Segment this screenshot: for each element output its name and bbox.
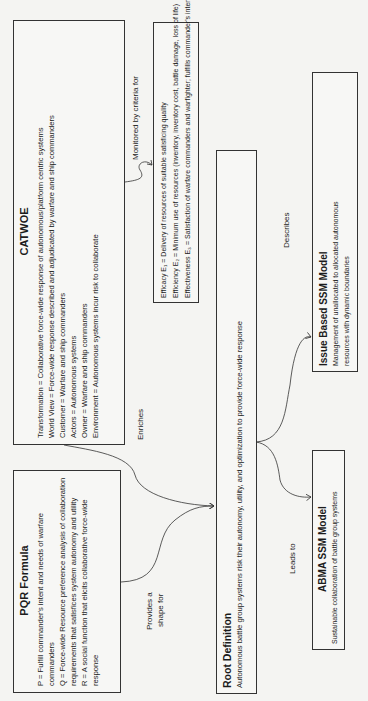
catwoe-line: Transformation = Collaborative force-wid… xyxy=(35,25,46,438)
catwoe-line: World View = Force-wide response describ… xyxy=(46,25,57,438)
catwoe-box: CATWOE Transformation = Collaborative fo… xyxy=(13,20,125,445)
label-provides-1: Provides a xyxy=(145,592,155,630)
catwoe-line: Customer = Warfare and ship commanders xyxy=(57,25,68,438)
catwoe-line: Owner = Warfare and ship commanders xyxy=(79,25,90,438)
criteria-efficacy: Efficacy E₁ = Delivery of resources of s… xyxy=(158,25,170,298)
abma-text: Sustainable collaboration of battle grou… xyxy=(329,454,340,644)
edge-provides xyxy=(121,506,214,582)
label-monitored: Monitored by criteria for xyxy=(131,76,141,160)
pqr-line-r: R = A social function that elicits colla… xyxy=(79,475,101,686)
root-title: Root Definition xyxy=(221,154,234,688)
pqr-line-q: Q = Force-wide Resource preference analy… xyxy=(57,475,79,686)
label-provides-2: shape for xyxy=(156,594,166,627)
criteria-effectiveness: Effectiveness E₃ = Satisfaction of warfa… xyxy=(182,25,194,298)
criteria-box: Efficacy E₁ = Delivery of resources of s… xyxy=(153,22,199,303)
catwoe-line: Actors = Autonomous systems xyxy=(68,25,79,438)
abma-title: ABMA SSM Model xyxy=(316,454,329,644)
edge-leads xyxy=(256,442,311,497)
issue-based-box: Issue Based SSM Model Management of unal… xyxy=(312,72,358,372)
label-enriches: Enriches xyxy=(136,409,146,440)
abma-box: ABMA SSM Model Sustainable collaboration… xyxy=(312,450,345,650)
root-text: Autonomous battle group systems risk the… xyxy=(234,154,245,688)
pqr-title: PQR Formula xyxy=(18,475,31,686)
catwoe-title: CATWOE xyxy=(18,25,31,438)
criteria-efficiency: Efficiency E₂ = Minimum use of resources… xyxy=(170,25,182,298)
pqr-box: PQR Formula P = Fulfill commander's inte… xyxy=(13,470,121,693)
root-definition-box: Root Definition Autonomous battle group … xyxy=(216,150,257,694)
issue-text: Management of unallocated to allocated a… xyxy=(330,196,352,366)
issue-title: Issue Based SSM Model xyxy=(317,76,330,366)
pqr-line-p: P = Fulfill commander's intent and needs… xyxy=(35,475,57,686)
edge-monitored xyxy=(125,162,152,182)
label-leads: Leads to xyxy=(288,543,298,574)
edge-describes xyxy=(256,337,311,442)
label-describes: Describes xyxy=(282,212,292,248)
catwoe-line: Environment = Autonomous systems incur r… xyxy=(90,25,101,438)
